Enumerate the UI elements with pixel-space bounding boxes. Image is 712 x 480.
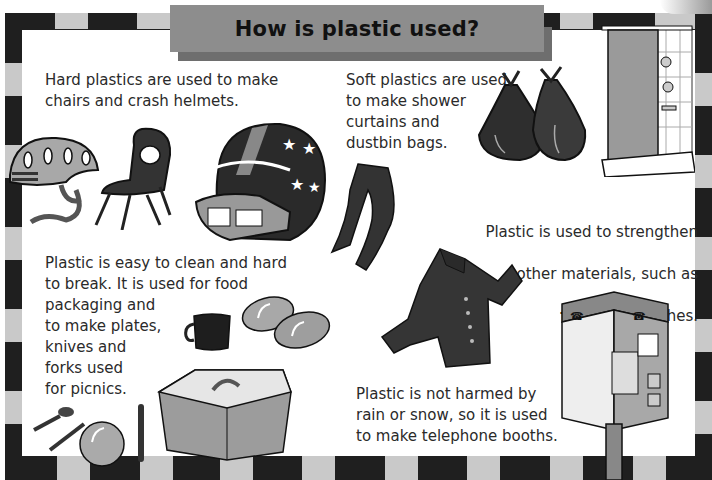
border-cell [695,73,712,106]
border-cell [5,63,22,96]
food-container-icon [155,362,295,462]
mug-icon [184,310,234,352]
caption-weather: Plastic is not harmed by rain or snow, s… [356,384,558,447]
svg-text:☎: ☎ [570,310,584,323]
svg-text:☎: ☎ [632,310,646,323]
svg-text:★: ★ [282,135,296,154]
border-cell [5,309,22,342]
border-cell [385,456,418,480]
bike-helmet-icon [6,130,101,230]
telephone-booth-icon: ☎ ☎ [558,290,673,480]
border-cell [137,13,170,29]
shirt-icon [380,245,525,370]
page-title: How is plastic used? [235,17,480,41]
border-cell [302,456,335,480]
dustbin-bags-icon [475,65,590,165]
title-banner: How is plastic used? [170,5,544,52]
border-cell [560,13,593,29]
cutlery-icon [32,400,152,468]
border-cell [55,13,88,29]
border-cell [467,456,500,480]
border-cell [5,227,22,260]
plates-icon [240,292,335,352]
plastic-chair-icon [92,125,177,230]
border-cell [695,155,712,188]
shower-curtain-icon [600,22,695,177]
svg-text:★: ★ [308,179,321,195]
page-curl-decoration [660,0,712,14]
football-helmet-icon: ★ ★ ★ ★ [190,120,330,245]
svg-text:★: ★ [302,139,316,158]
caption-hard-plastics: Hard plastics are used to make chairs an… [45,70,278,112]
svg-text:★: ★ [290,175,304,194]
border-cell [5,391,22,424]
caption-line: Plastic is used to strengthen [420,222,698,243]
border-cell [695,401,712,434]
